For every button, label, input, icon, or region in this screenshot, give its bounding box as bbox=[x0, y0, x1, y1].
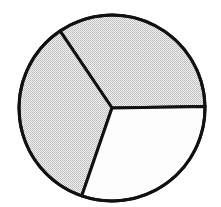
pie-chart-figure bbox=[0, 0, 221, 207]
pie-chart-canvas bbox=[0, 0, 221, 207]
